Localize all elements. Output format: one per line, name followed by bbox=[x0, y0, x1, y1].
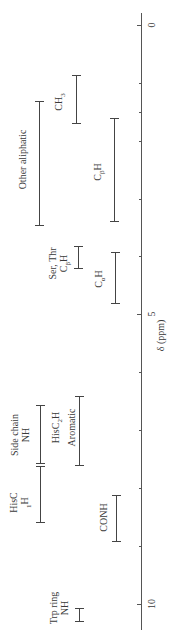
range-cbh bbox=[114, 118, 115, 222]
range-other-aliphatic bbox=[39, 101, 40, 226]
tick-minor bbox=[139, 546, 142, 547]
range-side-chain-nh bbox=[40, 405, 41, 464]
tick-minor bbox=[139, 141, 142, 142]
range-ch3 bbox=[76, 75, 77, 124]
tick-minor bbox=[139, 112, 142, 113]
tick-minor bbox=[139, 372, 142, 373]
range-ser-thr-cbh bbox=[78, 246, 79, 269]
tick-label-0: 0 bbox=[147, 18, 157, 32]
range-conh bbox=[116, 495, 117, 542]
label-trp-ring-nh: Trp ringNH bbox=[48, 583, 70, 633]
label-cah: CαH bbox=[93, 264, 109, 294]
tick-5 bbox=[137, 314, 142, 315]
tick-10 bbox=[137, 604, 142, 605]
label-ch3: CH3 bbox=[53, 87, 69, 117]
label-side-chain-nh: Side chainNH bbox=[9, 405, 31, 465]
chemical-shift-diagram: 0 5 10 δ (ppm) Other aliphatic Side chai… bbox=[0, 0, 181, 639]
range-hisc2h-aromatic bbox=[79, 396, 80, 466]
tick-minor bbox=[139, 256, 142, 257]
range-trp-ring-nh bbox=[79, 608, 80, 622]
label-other-aliphatic: Other aliphatic bbox=[17, 110, 28, 210]
label-hisc1h: HisC1H bbox=[8, 478, 35, 528]
range-hisc1h bbox=[40, 466, 41, 523]
label-ser-thr-cbh: Ser, Thr CβH bbox=[47, 239, 74, 289]
ppm-axis bbox=[141, 13, 142, 630]
tick-minor bbox=[139, 83, 142, 84]
tick-minor bbox=[139, 199, 142, 200]
range-cah bbox=[115, 252, 116, 304]
label-cbh: CβH bbox=[92, 157, 108, 187]
tick-0 bbox=[137, 25, 142, 26]
label-hisc2h-aromatic: HisC2H Aromatic bbox=[50, 398, 77, 458]
tick-minor bbox=[139, 430, 142, 431]
tick-label-10: 10 bbox=[147, 597, 157, 611]
axis-title: δ (ppm) bbox=[155, 316, 166, 356]
tick-minor bbox=[139, 488, 142, 489]
label-conh: CONH bbox=[98, 501, 109, 535]
